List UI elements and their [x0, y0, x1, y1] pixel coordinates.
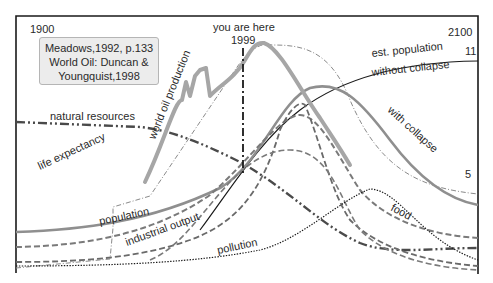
value-5-label: 5	[465, 168, 471, 180]
you-are-here-label: you are here	[213, 21, 275, 33]
series-secondary-dashed	[150, 150, 478, 270]
year-start-label: 1900	[30, 23, 54, 35]
source-line-2: World Oil: Duncan &	[40, 55, 158, 69]
pollution-label: pollution	[216, 236, 259, 256]
with-collapse-label: with collapse	[385, 103, 441, 155]
food-label: food	[389, 201, 414, 222]
source-line-1: Meadows,1992, p.133	[40, 41, 158, 55]
est-population-label: est. population	[371, 40, 443, 59]
without-collapse-label: without collapse	[370, 58, 450, 78]
life-expectancy-label: life expectancy	[36, 130, 107, 172]
value-11-label: 11	[465, 45, 476, 57]
marker-year-label: 1999	[231, 34, 255, 46]
population-label: population	[98, 205, 150, 227]
year-end-label: 2100	[448, 26, 472, 38]
source-citation-box: Meadows,1992, p.133 World Oil: Duncan & …	[39, 37, 159, 85]
source-line-3: Youngquist,1998	[40, 69, 158, 83]
natural-resources-label: natural resources	[50, 110, 135, 122]
